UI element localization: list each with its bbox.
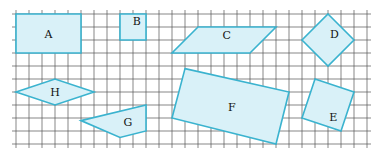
shape-h: H [16, 79, 94, 105]
shape-f-label: F [228, 101, 236, 114]
shape-g-label: G [123, 116, 132, 129]
shape-a-label: A [44, 28, 54, 41]
shape-e-polygon [302, 79, 354, 131]
shape-b-label: B [133, 15, 141, 28]
grid-diagram: ABCDHGFE [0, 0, 385, 153]
shape-d-polygon [302, 14, 354, 66]
shape-d-label: D [330, 28, 339, 41]
shape-h-label: H [50, 86, 60, 99]
shape-f: F [172, 69, 289, 144]
shape-b: B [120, 14, 146, 40]
shape-c-label: C [222, 29, 230, 42]
shape-c: C [172, 27, 276, 53]
shape-e: E [302, 79, 354, 131]
shape-g: G [81, 105, 146, 138]
shape-e-label: E [329, 111, 337, 124]
shape-g-polygon [81, 105, 146, 138]
shape-a: A [16, 14, 81, 53]
shape-d: D [302, 14, 354, 66]
